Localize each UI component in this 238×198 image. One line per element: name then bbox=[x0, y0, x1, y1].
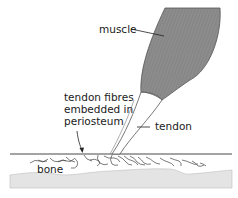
periosteum-arrow-line bbox=[77, 131, 82, 150]
arrow-head-icon bbox=[80, 148, 85, 154]
label-bone: bone bbox=[37, 163, 63, 175]
label-tendon-fibres-2: embedded in bbox=[64, 103, 133, 115]
label-muscle: muscle bbox=[99, 23, 137, 35]
tendon-attachment-diagram: muscle tendon fibres embedded in periost… bbox=[0, 0, 238, 198]
label-tendon-fibres-3: periosteum bbox=[64, 115, 124, 127]
muscle-shape bbox=[141, 8, 220, 100]
label-tendon: tendon bbox=[155, 120, 192, 132]
label-tendon-fibres-1: tendon fibres bbox=[64, 91, 134, 103]
